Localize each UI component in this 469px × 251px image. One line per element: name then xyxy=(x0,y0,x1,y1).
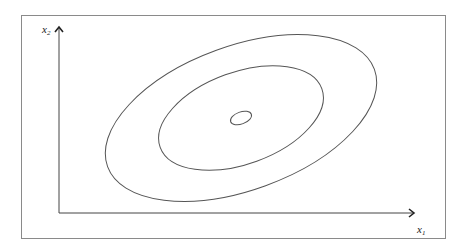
inner-contour xyxy=(229,109,254,128)
y-axis-label: x2 xyxy=(41,23,51,37)
outer-contour xyxy=(83,2,399,234)
x-axis-label: x1 xyxy=(416,223,425,237)
contour-diagram: x2 x1 xyxy=(0,0,469,251)
middle-contour xyxy=(144,45,337,190)
